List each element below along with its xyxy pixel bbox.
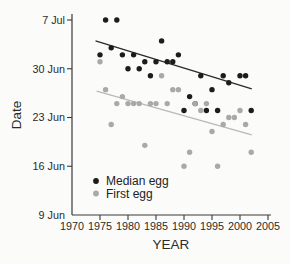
first-egg-point xyxy=(176,87,181,92)
first-egg-point xyxy=(193,101,198,106)
median-egg-point xyxy=(226,80,231,85)
median-egg-point xyxy=(142,59,147,64)
median-egg-point xyxy=(170,59,175,64)
first-egg-point xyxy=(249,150,254,155)
first-egg-point xyxy=(237,108,242,113)
median-egg-point xyxy=(165,59,170,64)
first-egg-point xyxy=(125,101,130,106)
first-egg-point xyxy=(165,101,170,106)
median-egg-point xyxy=(148,73,153,78)
median-egg-point xyxy=(198,73,203,78)
first-egg-point xyxy=(198,108,203,113)
median-egg-point xyxy=(137,66,142,71)
median-egg-point xyxy=(109,45,114,50)
first-egg-point xyxy=(226,115,231,120)
legend: Median eggFirst egg xyxy=(93,174,169,201)
first-egg-point xyxy=(137,101,142,106)
first-egg-legend-swatch xyxy=(93,191,99,197)
x-tick-label: 1970 xyxy=(60,220,84,232)
median-egg-point xyxy=(237,73,242,78)
median-egg-point xyxy=(120,52,125,57)
first-egg-point xyxy=(243,122,248,127)
y-axis-title: Date xyxy=(9,101,24,130)
first-egg-point xyxy=(204,101,209,106)
y-tick-label: 16 Jun xyxy=(33,160,65,172)
first-egg-point xyxy=(103,87,108,92)
first-egg-point xyxy=(97,59,102,64)
median-egg-point xyxy=(209,87,214,92)
median-egg-point xyxy=(221,73,226,78)
median-egg-point xyxy=(159,38,164,43)
y-tick-label: 7 Jul xyxy=(42,14,65,26)
y-tick-label: 23 Jun xyxy=(33,111,65,123)
x-tick-label: 1990 xyxy=(172,220,196,232)
median-egg-point xyxy=(181,108,186,113)
x-tick-label: 2005 xyxy=(256,220,280,232)
median-egg-legend-swatch xyxy=(93,178,99,184)
first-egg-point xyxy=(187,150,192,155)
first-egg-point xyxy=(159,73,164,78)
x-tick-label: 2000 xyxy=(228,220,252,232)
median-egg-point xyxy=(215,108,220,113)
median-egg-point xyxy=(243,73,248,78)
first-egg-legend-label: First egg xyxy=(106,187,153,201)
first-egg-point xyxy=(215,164,220,169)
median-egg-point xyxy=(176,52,181,57)
first-egg-point xyxy=(142,143,147,148)
figure-container: 9 Jun16 Jun23 Jun30 Jun7 Jul197019751980… xyxy=(0,0,290,264)
first-egg-point xyxy=(120,94,125,99)
egg-date-scatter-plot: 9 Jun16 Jun23 Jun30 Jun7 Jul197019751980… xyxy=(0,0,290,264)
x-tick-label: 1995 xyxy=(200,220,224,232)
x-axis-title: YEAR xyxy=(153,237,190,252)
first-egg-point xyxy=(221,122,226,127)
first-egg-point xyxy=(170,87,175,92)
first-egg-point xyxy=(109,122,114,127)
median-egg-point xyxy=(187,94,192,99)
first-egg-point xyxy=(148,101,153,106)
first-egg-point xyxy=(181,164,186,169)
first-egg-point xyxy=(131,101,136,106)
median-egg-point xyxy=(204,108,209,113)
y-tick-label: 30 Jun xyxy=(33,63,65,75)
median-egg-point xyxy=(97,52,102,57)
median-egg-point xyxy=(103,17,108,22)
median-egg-point xyxy=(114,17,119,22)
median-egg-point xyxy=(249,108,254,113)
x-tick-label: 1980 xyxy=(116,220,140,232)
median-egg-point xyxy=(131,52,136,57)
first-egg-point xyxy=(232,115,237,120)
x-tick-label: 1985 xyxy=(144,220,168,232)
x-tick-label: 1975 xyxy=(88,220,112,232)
median-egg-point xyxy=(125,66,130,71)
median-egg-point xyxy=(153,59,158,64)
first-egg-point xyxy=(153,101,158,106)
first-egg-point xyxy=(209,129,214,134)
first-egg-point xyxy=(114,101,119,106)
